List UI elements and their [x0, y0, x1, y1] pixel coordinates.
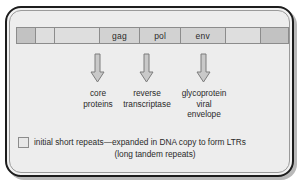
arrow-env-icon [196, 53, 211, 83]
genome-segment-spacer-2 [55, 28, 100, 43]
ltr-swatch-icon [18, 137, 29, 148]
legend-row-primary: initial short repeats—expanded in DNA co… [18, 137, 286, 149]
product-env-line-1: glycoprotein [168, 88, 240, 99]
arrow-gag-icon [90, 53, 105, 83]
product-env-line-3: envelope [168, 109, 240, 120]
genome-segment-pol: pol [140, 28, 181, 43]
genome-segment-spacer-1 [36, 28, 55, 43]
ltr-legend: initial short repeats—expanded in DNA co… [18, 137, 286, 160]
retrovirus-genome-bar: gagpolenv [16, 27, 289, 44]
gene-label-env: env [196, 31, 210, 41]
genome-segment-spacer-6 [226, 28, 261, 43]
genome-segment-gag: gag [100, 28, 141, 43]
legend-line-2: (long tandem repeats) [18, 149, 286, 161]
arrow-pol-icon [139, 53, 154, 83]
genome-segment-ltr-repeat-7 [261, 28, 288, 43]
genome-segment-ltr-repeat-0 [17, 28, 36, 43]
product-env: glycoproteinviralenvelope [168, 88, 240, 120]
gene-label-gag: gag [112, 31, 127, 41]
gene-label-pol: pol [154, 31, 166, 41]
legend-line-1: initial short repeats—expanded in DNA co… [34, 137, 246, 149]
product-env-line-2: viral [168, 99, 240, 110]
genome-segment-env: env [181, 28, 226, 43]
retrovirus-genome-figure: gagpolenv coreproteinsreversetranscripta… [0, 0, 304, 187]
